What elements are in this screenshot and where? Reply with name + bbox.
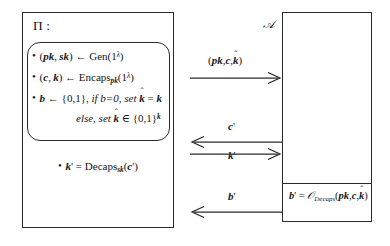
- bullet-icon: •: [58, 159, 62, 171]
- message-arrow-4-left: [190, 206, 282, 218]
- message-arrow-3-right: [190, 148, 282, 160]
- bullet-icon: •: [32, 91, 36, 103]
- message-arrow-2-left: [190, 136, 282, 148]
- step-encaps: • (c, k) ← Encapspk(1λ): [32, 71, 134, 85]
- step-sample-bit-else: else, set k̂ ∈ {0,1}k: [76, 113, 161, 124]
- bullet-icon: •: [32, 70, 36, 82]
- protocol-diagram: Π : • (pk, sk) ← Gen(1λ) • (c, k) ← Enca…: [0, 0, 390, 246]
- challenger-title: Π :: [33, 19, 50, 33]
- oracle-call-expression: b' = 𝒪Decaps(pk,c,k̂): [289, 191, 368, 203]
- message-arrow-1-right: [190, 72, 282, 84]
- message-label-1: (pk,c,k̂): [208, 55, 242, 66]
- step-decaps: • k' = Decapssk(c'): [58, 160, 138, 174]
- message-label-2: c': [228, 121, 235, 132]
- step-keygen: • (pk, sk) ← Gen(1λ): [32, 50, 124, 62]
- adversary-title: 𝒜: [263, 18, 274, 30]
- bullet-icon: •: [32, 49, 36, 61]
- message-label-4: b': [228, 191, 235, 202]
- step-sample-bit: • b ← {0,1}, if b=0, set k̂ = k: [32, 92, 162, 104]
